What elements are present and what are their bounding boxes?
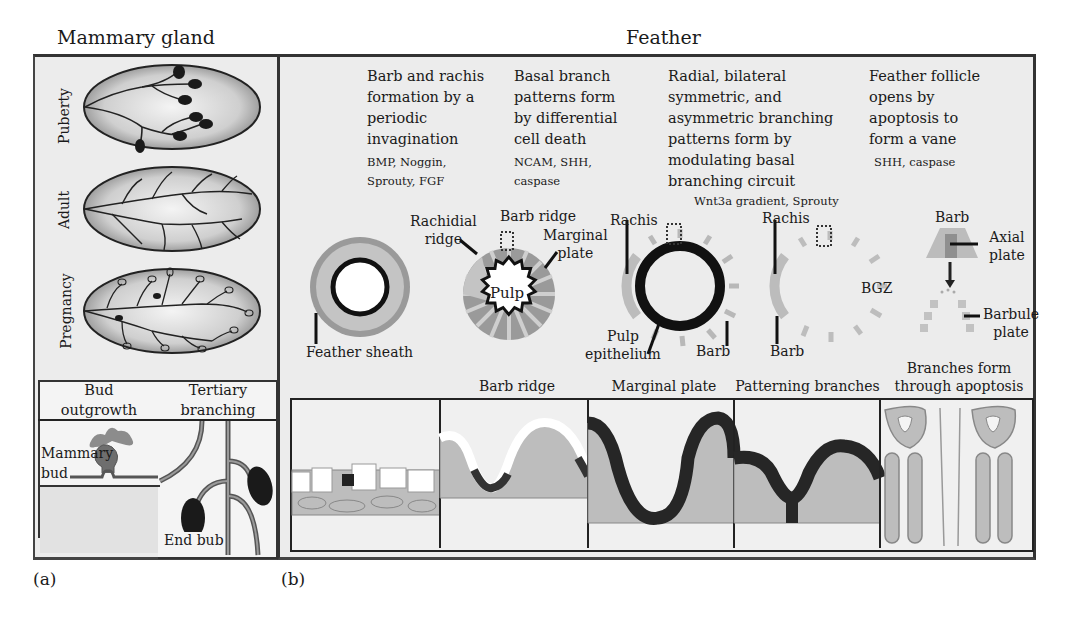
rachis-label-1: Rachis	[610, 211, 658, 229]
panel-a-letter: (a)	[33, 569, 56, 589]
column-1-description: Barb and rachis formation by a periodic …	[367, 66, 484, 150]
barb-label-1: Barb	[696, 342, 730, 360]
column-1-factors: BMP, Noggin, Sprouty, FGF	[367, 153, 446, 191]
rachidial-ridge-label: Rachidial ridge	[410, 212, 477, 248]
bgz-label: BGZ	[861, 279, 892, 297]
section-apoptosis-branches	[880, 398, 1026, 548]
barbule-plate-label: Barbule plate	[983, 305, 1039, 341]
marginal-plate-label: Marginal plate	[543, 226, 608, 262]
stage-label-puberty: Puberty	[56, 86, 72, 146]
gray-filler	[40, 487, 158, 553]
section-marginal-plate	[588, 398, 734, 548]
section-label-marginal-plate: Marginal plate	[591, 377, 737, 395]
axial-plate-label: Axial plate	[989, 228, 1025, 264]
mammary-gland-title: Mammary gland	[57, 26, 215, 48]
pulp-epithelium-label: Pulp epithelium	[585, 327, 661, 363]
stage-label-adult: Adult	[56, 180, 72, 240]
section-label-barb-ridge: Barb ridge	[443, 377, 591, 395]
section-label-patterning-branches: Patterning branches	[730, 377, 885, 395]
column-4-factors: SHH, caspase	[874, 153, 955, 172]
panel-b-letter: (b)	[281, 569, 305, 589]
column-3-description: Radial, bilateral symmetric, and asymmet…	[668, 66, 833, 192]
tertiary-branching-header: Tertiary branching	[160, 380, 276, 420]
puberty-gland-diagram	[82, 62, 262, 152]
feather-sheath-diagram	[306, 233, 416, 343]
barb-label-3: Barb	[935, 208, 969, 226]
section-invagination	[292, 398, 440, 548]
barb-label-2: Barb	[770, 342, 804, 360]
pregnancy-gland-diagram	[82, 266, 262, 356]
mammary-bud-label: Mammary bud	[41, 443, 113, 483]
column-2-factors: NCAM, SHH, caspase	[514, 153, 592, 191]
column-4-description: Feather follicle opens by apoptosis to f…	[869, 66, 980, 150]
stage-label-pregnancy: Pregnancy	[58, 271, 74, 351]
section-barb-ridge	[440, 398, 588, 548]
adult-gland-diagram	[82, 164, 262, 254]
feather-sheath-label: Feather sheath	[306, 343, 413, 361]
section-patterning-branches	[734, 398, 880, 548]
end-bud-label: End bub	[164, 532, 224, 548]
pulp-label: Pulp	[490, 284, 524, 302]
barb-ridge-label: Barb ridge	[500, 207, 576, 225]
bud-outgrowth-header: Bud outgrowth	[40, 380, 158, 420]
rachis-label-2: Rachis	[762, 209, 810, 227]
feather-title: Feather	[626, 26, 701, 48]
column-2-description: Basal branch patterns form by differenti…	[514, 66, 617, 150]
section-label-branches-apoptosis: Branches form through apoptosis	[885, 359, 1033, 395]
